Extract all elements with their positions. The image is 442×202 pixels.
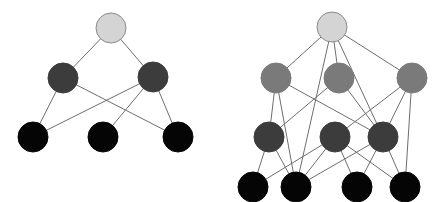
left-graph (18, 13, 193, 152)
right-graph (238, 12, 427, 202)
edge-r-k2 (296, 27, 332, 187)
node-m2 (324, 63, 354, 93)
node-k4 (390, 172, 420, 202)
edge-m3-k4 (405, 78, 412, 187)
node-c (138, 62, 168, 92)
node-n1 (254, 122, 284, 152)
node-k3 (342, 172, 372, 202)
node-n3 (368, 122, 398, 152)
node-r (317, 12, 347, 42)
right-graph-nodes (238, 12, 427, 202)
node-d (18, 122, 48, 152)
node-e (88, 122, 118, 152)
node-k1 (238, 172, 268, 202)
node-a (96, 13, 126, 43)
node-k2 (281, 172, 311, 202)
right-graph-edges (253, 27, 412, 187)
diagram-canvas (0, 0, 442, 202)
node-f (163, 122, 193, 152)
left-graph-nodes (18, 13, 193, 152)
node-n2 (320, 122, 350, 152)
node-b (48, 63, 78, 93)
node-m1 (261, 63, 291, 93)
network-diagram (0, 0, 442, 202)
node-m3 (397, 63, 427, 93)
